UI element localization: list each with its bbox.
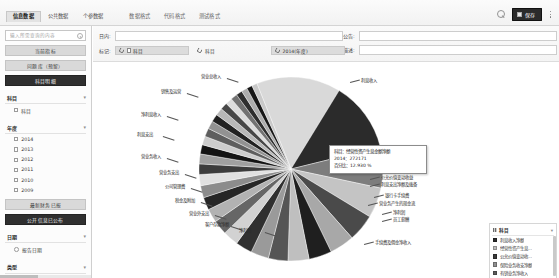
legend-item[interactable]: 有销业务净收入 (492, 269, 554, 277)
refresh-icon[interactable] (118, 47, 125, 54)
sidebar-section-year-header[interactable]: 年度 ▾ (5, 121, 86, 134)
sidebar-button-account-detail[interactable]: 科目明细 (5, 75, 86, 86)
legend-title-text: 科目 (499, 227, 509, 233)
sidebar-item-label: 报告日期 (22, 246, 42, 253)
legend-label: 公允价值变动收... (500, 253, 532, 259)
filter-input-description[interactable] (359, 45, 557, 55)
sidebar-section-subject-header[interactable]: 科目 ▾ (5, 91, 86, 104)
calendar-icon[interactable] (14, 247, 19, 252)
legend-item[interactable]: 经营性资产生息... (492, 244, 554, 252)
legend-header[interactable]: 科目 ▾ (492, 226, 554, 236)
pie-slice-label: 税金及附加 (175, 199, 195, 204)
filter-label-tags: 标记: (99, 47, 111, 54)
sidebar-item-year-2012[interactable]: 2012 (5, 155, 86, 165)
chart-legend: 科目 ▾ 利息收入净额经营性资产生息...公允价值变动收...保险业务收支净额有… (489, 223, 557, 278)
search-icon[interactable] (497, 10, 506, 19)
sidebar: 当前指标 问题库（预留） 科目明细 科目 ▾ 科目 年度 ▾ 2014 2013… (0, 26, 92, 278)
tab-personal-data[interactable]: 个参数据 (76, 11, 111, 22)
pie-slice-label: 银行卡手续费 (385, 194, 409, 199)
filter-label-announcement: 公告: (343, 32, 355, 39)
filter-input-content[interactable] (115, 31, 343, 41)
sidebar-button-latest-financial[interactable]: 最新财务已报 (5, 199, 86, 210)
pie-slice-label: 净利润 (239, 229, 251, 234)
chevron-collapse-icon[interactable]: ▾ (83, 264, 86, 270)
legend-label: 经营性资产生息... (500, 245, 532, 251)
chevron-collapse-icon[interactable]: ▾ (83, 94, 86, 100)
section-title: 科目 (7, 94, 17, 101)
filter-chip-subject-1[interactable]: 科目 (115, 46, 189, 56)
sidebar-item-label: 科目 (21, 107, 31, 114)
filter-row-description: 描述: (343, 44, 557, 55)
sidebar-item-report-date[interactable]: 报告日期 (5, 243, 86, 255)
sidebar-button-public-disclosed[interactable]: 公开信息已公布 (5, 214, 86, 225)
more-dots-icon[interactable] (548, 10, 553, 19)
tooltip-line-percent: 百分比：12.930 % (334, 163, 422, 170)
tooltip-line-value: 2014：272171 (334, 156, 422, 163)
search-icon[interactable] (77, 33, 83, 39)
checkbox-icon[interactable] (14, 147, 18, 151)
refresh-icon[interactable] (196, 47, 203, 54)
top-bar: 信息数据 公共数据 个参数据 数据格式 代码格式 测试格式 保存 (0, 0, 559, 26)
pie-slice-label: 净利息收入 (141, 113, 161, 118)
search-input[interactable] (5, 30, 86, 41)
sidebar-item-year-2013[interactable]: 2013 (5, 144, 86, 154)
chevron-collapse-icon[interactable]: ▾ (551, 228, 553, 233)
sidebar-section-date-header[interactable]: 日期 ▾ (5, 230, 86, 243)
sidebar-section-type-header[interactable]: 类型 ▾ (5, 261, 86, 274)
tab-test-format[interactable]: 测试格式 (192, 11, 227, 22)
filter-chip-subject-2[interactable]: 科目 (193, 46, 267, 56)
filter-label-content: 日内: (99, 32, 111, 39)
filter-row-announcement: 公告: (343, 30, 557, 41)
legend-item[interactable]: 公允价值变动收... (492, 252, 554, 260)
checkbox-icon[interactable] (14, 108, 18, 112)
checkbox-icon[interactable] (14, 168, 18, 172)
tab-info-data[interactable]: 信息数据 (6, 11, 41, 22)
sidebar-item-year-2010[interactable]: 2010 (5, 175, 86, 185)
tab-public-data[interactable]: 公共数据 (41, 11, 76, 22)
sidebar-item-year-2014[interactable]: 2014 (5, 134, 86, 144)
chart-canvas: 营业总收入销售及运营净利息收入利息支出营业务收入营业务支出公司管理费税金及附加营… (93, 63, 559, 278)
sidebar-item-label: 2011 (21, 167, 33, 172)
filter-chip-year-2014[interactable]: 2014(年度) (271, 46, 345, 56)
chip-label: 科目 (205, 48, 215, 54)
sidebar-item-label: 2012 (21, 157, 33, 162)
chip-label: 科目 (133, 48, 143, 54)
checkbox-icon[interactable] (14, 188, 18, 192)
legend-icon (493, 228, 497, 232)
sidebar-item-year-2009[interactable]: 2009 (5, 185, 86, 195)
pie-slice-label: 营业务产生的现金流 (379, 202, 415, 207)
tab-code-format[interactable]: 代码格式 (157, 11, 192, 22)
pie-slice-label: 营业总收入 (201, 75, 221, 80)
section-title: 日期 (7, 233, 17, 240)
chevron-collapse-icon[interactable]: ▾ (83, 233, 86, 239)
refresh-icon[interactable] (274, 47, 281, 54)
checkbox-icon[interactable] (127, 48, 131, 52)
checkbox-icon[interactable] (14, 158, 18, 162)
sidebar-item-label: 2009 (21, 188, 33, 193)
tab-data-format[interactable]: 数据格式 (122, 11, 157, 22)
pie-slice-label: 客户存款净额 (205, 223, 229, 228)
legend-swatch (493, 254, 497, 258)
sidebar-item-subject[interactable]: 科目 (5, 104, 86, 116)
legend-title: 科目 (493, 227, 509, 233)
sidebar-item-year-2011[interactable]: 2011 (5, 165, 86, 175)
legend-item[interactable]: 保险业务收支净额 (492, 261, 554, 269)
pie-slice-label: 公司管理费 (165, 185, 185, 190)
sidebar-button-current-indicator[interactable]: 当前指标 (5, 45, 86, 56)
sidebar-item-label: 2013 (21, 147, 33, 152)
filter-input-announcement[interactable] (359, 31, 557, 41)
legend-swatch (493, 246, 497, 250)
legend-scrollbar[interactable] (553, 236, 555, 276)
tab-strip: 信息数据 公共数据 个参数据 数据格式 代码格式 测试格式 (6, 11, 227, 22)
legend-swatch (493, 271, 497, 275)
legend-item[interactable]: 利息收入净额 (492, 236, 554, 244)
pie-slice-label: 利息支出净额及拨备 (381, 183, 417, 188)
filter-label-description: 描述: (343, 46, 355, 53)
checkbox-icon[interactable] (14, 137, 18, 141)
checkbox-icon[interactable] (14, 178, 18, 182)
save-button[interactable]: 保存 (512, 8, 542, 21)
chevron-collapse-icon[interactable]: ▾ (83, 124, 86, 130)
legend-swatch (493, 262, 497, 266)
sidebar-button-question-bank[interactable]: 问题库（预留） (5, 60, 86, 71)
pie-slice-label: 销售及运营 (161, 90, 181, 95)
